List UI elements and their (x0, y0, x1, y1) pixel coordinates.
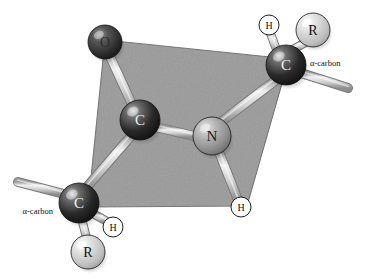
atom-sphere-nitrogen (193, 117, 231, 155)
peptide-plane-diagram: OCNCCRRHHH α-carbonα-carbon (0, 0, 367, 279)
atom-sphere-r-group-left (71, 235, 105, 269)
atom-sphere-oxygen (88, 25, 122, 59)
atom-sphere-r-group-right (296, 13, 330, 47)
atom-sphere-carbonyl-carbon (120, 100, 160, 140)
atom-hydrogen-top: H (259, 15, 279, 35)
atom-hydrogen-amide: H (231, 197, 251, 217)
atom-sphere-hydrogen-amide (231, 197, 251, 217)
atom-sphere-alpha-carbon-left (59, 183, 99, 223)
atom-sphere-hydrogen-bottom (103, 217, 123, 237)
molecular-diagram-canvas: OCNCCRRHHH α-carbonα-carbon (0, 0, 367, 279)
atom-sphere-alpha-carbon-right (266, 45, 306, 85)
atom-hydrogen-bottom: H (103, 217, 123, 237)
atom-sphere-hydrogen-top (259, 15, 279, 35)
